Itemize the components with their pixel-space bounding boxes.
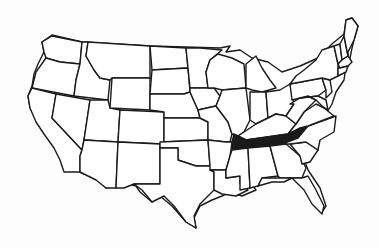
us-map-svg — [0, 0, 379, 248]
state-new-york — [290, 46, 338, 84]
state-arizona — [80, 140, 118, 188]
state-colorado — [118, 110, 164, 144]
state-new-mexico — [116, 142, 160, 188]
state-north-dakota — [150, 46, 188, 70]
state-kansas — [164, 118, 208, 142]
state-wyoming — [110, 78, 150, 110]
state-south-dakota — [150, 68, 190, 94]
us-map: Tennessee — [0, 0, 379, 248]
